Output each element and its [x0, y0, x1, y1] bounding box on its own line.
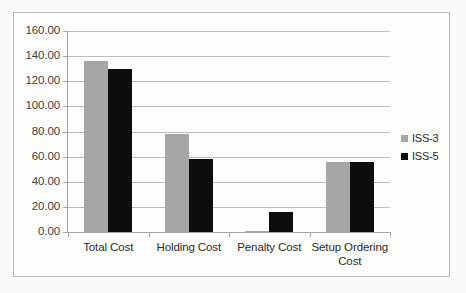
y-axis-tick-label: 160.00 — [2, 25, 60, 36]
legend-label: ISS-5 — [412, 150, 439, 162]
y-axis-tick-mark — [63, 182, 68, 183]
x-axis-tick-mark — [68, 232, 69, 237]
y-axis-tick-mark — [63, 81, 68, 82]
x-axis-tick-mark — [149, 232, 150, 237]
y-axis-tick-label: 140.00 — [2, 50, 60, 61]
y-axis-tick-label: 0.00 — [2, 226, 60, 237]
bar-iss-3-penalty-cost — [245, 231, 269, 232]
bar-chart-figure: 0.0020.0040.0060.0080.00100.00120.00140.… — [0, 0, 466, 293]
y-axis-tick-label: 60.00 — [2, 151, 60, 162]
y-axis-tick-label: 20.00 — [2, 201, 60, 212]
bar-iss-5-setup-ordering-cost — [350, 162, 374, 232]
x-axis-category-label: Setup Ordering Cost — [304, 240, 397, 268]
bar-iss-3-holding-cost — [165, 134, 189, 232]
bar-group — [84, 31, 132, 232]
y-axis-tick-mark — [63, 132, 68, 133]
bars-layer — [68, 31, 390, 232]
y-axis-tick-label: 120.00 — [2, 75, 60, 86]
y-axis-tick-labels: 0.0020.0040.0060.0080.00100.00120.00140.… — [0, 0, 60, 293]
y-axis-tick-mark — [63, 56, 68, 57]
legend-label: ISS-3 — [412, 132, 439, 144]
legend-swatch-icon — [401, 135, 408, 142]
bar-group — [326, 31, 374, 232]
x-axis-tick-mark — [229, 232, 230, 237]
x-axis-tick-mark — [310, 232, 311, 237]
y-axis-tick-mark — [63, 31, 68, 32]
x-axis-category-label: Penalty Cost — [223, 240, 316, 254]
chart-legend: ISS-3ISS-5 — [401, 129, 447, 165]
bar-iss-5-total-cost — [108, 69, 132, 232]
legend-swatch-icon — [401, 153, 408, 160]
bar-iss-5-penalty-cost — [269, 212, 293, 232]
y-axis-tick-label: 100.00 — [2, 100, 60, 111]
bar-iss-3-setup-ordering-cost — [326, 162, 350, 232]
y-axis-tick-label: 40.00 — [2, 176, 60, 187]
legend-item-iss-5: ISS-5 — [401, 147, 447, 165]
y-axis-tick-label: 80.00 — [2, 126, 60, 137]
legend-item-iss-3: ISS-3 — [401, 129, 447, 147]
y-axis-tick-mark — [63, 157, 68, 158]
x-axis-tick-mark — [390, 232, 391, 237]
y-axis-tick-mark — [63, 207, 68, 208]
x-axis-category-label: Holding Cost — [143, 240, 236, 254]
bar-iss-3-total-cost — [84, 61, 108, 232]
x-axis-category-label: Total Cost — [62, 240, 155, 254]
bar-group — [245, 31, 293, 232]
bar-group — [165, 31, 213, 232]
bar-iss-5-holding-cost — [189, 159, 213, 232]
y-axis-tick-mark — [63, 106, 68, 107]
